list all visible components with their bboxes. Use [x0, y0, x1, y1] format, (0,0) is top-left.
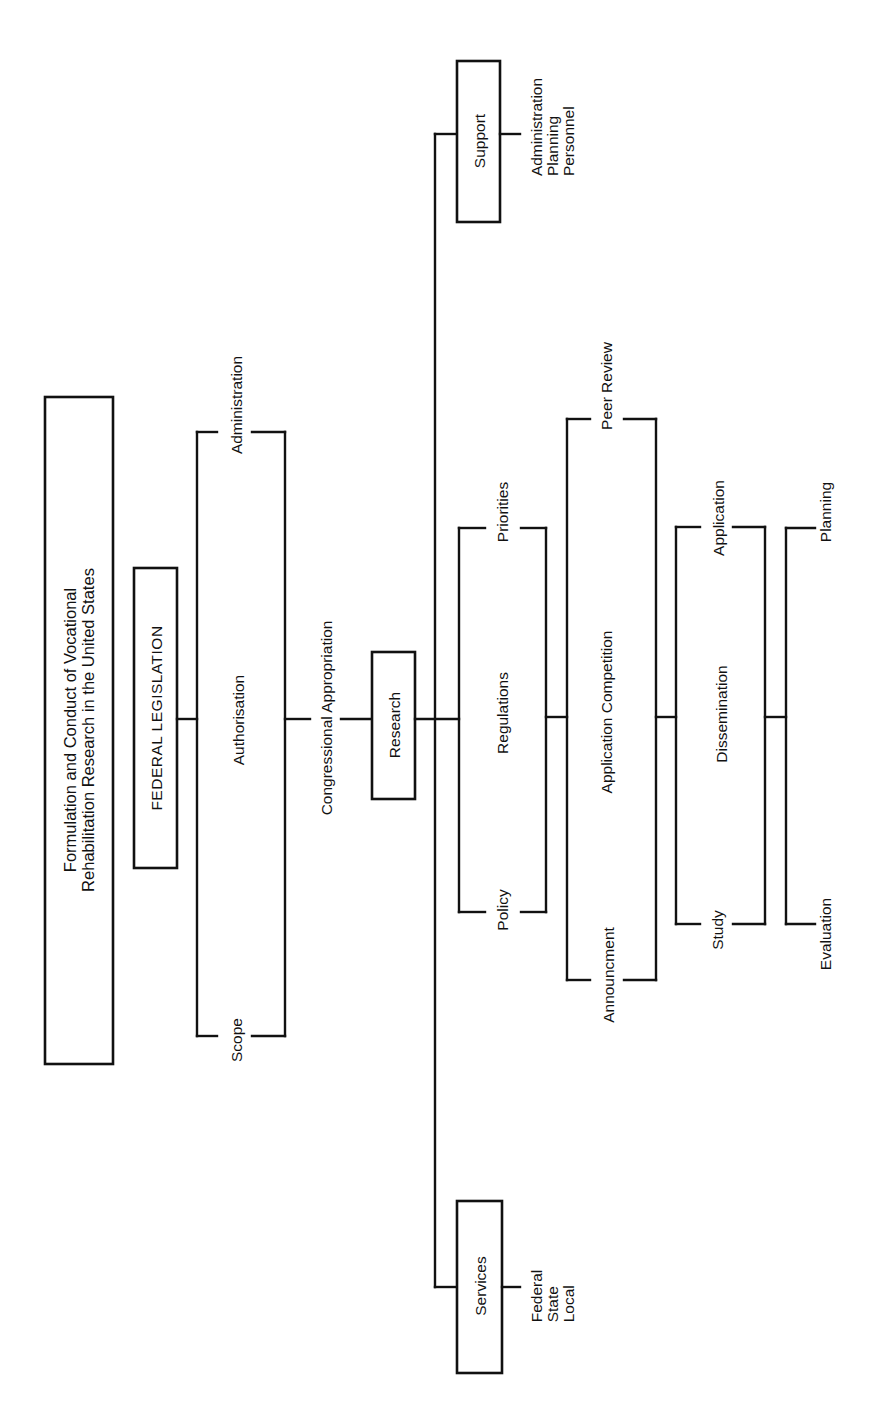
services-items: Federal State Local: [529, 1270, 577, 1323]
diagram-title: Formulation and Conduct of Vocational Re…: [61, 568, 97, 892]
label-congressional-appropriation: Congressional Appropriation: [318, 621, 335, 816]
label-authorisation: Authorisation: [230, 675, 247, 765]
label-scope: Scope: [228, 1018, 245, 1062]
services-label: Services: [472, 1256, 489, 1315]
label-dissemination: Dissemination: [713, 665, 730, 762]
title-line-1: Formulation and Conduct of Vocational: [61, 568, 79, 892]
support-items: Administration Planning Personnel: [529, 78, 577, 176]
label-policy: Policy: [494, 889, 511, 930]
label-study: Study: [709, 910, 726, 950]
label-application: Application: [710, 480, 727, 556]
label-planning: Planning: [817, 482, 834, 542]
federal-legislation-label: FEDERAL LEGISLATION: [148, 625, 165, 810]
label-priorities: Priorities: [494, 482, 511, 542]
label-application-competition: Application Competition: [598, 631, 615, 794]
label-regulations: Regulations: [494, 672, 511, 754]
label-peer-review: Peer Review: [598, 342, 615, 430]
label-announcment: Announcment: [600, 927, 617, 1023]
research-label: Research: [386, 692, 403, 758]
label-administration: Administration: [228, 356, 245, 454]
label-evaluation: Evaluation: [817, 898, 834, 970]
evaluation-bracket: [786, 528, 815, 924]
title-line-2: Rehabilitation Research in the United St…: [79, 568, 97, 892]
support-label: Support: [471, 114, 488, 168]
diagram-lines: [0, 0, 869, 1426]
